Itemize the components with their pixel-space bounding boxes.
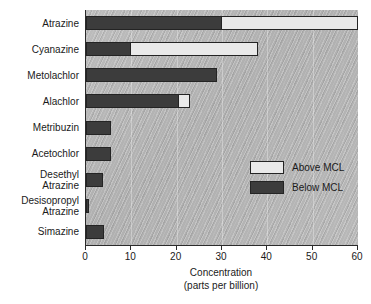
- legend-entry: Above MCL: [250, 158, 354, 178]
- gridline: [267, 10, 268, 245]
- bar-segment-below-mcl: [86, 16, 222, 30]
- bar-segment-below-mcl: [86, 68, 217, 82]
- plot-area: [85, 10, 358, 246]
- bar-segment-below-mcl: [86, 173, 103, 187]
- legend-entry: Below MCL: [250, 178, 354, 198]
- legend: Above MCLBelow MCL: [250, 158, 354, 198]
- category-label: Desisopropyl Atrazine: [0, 195, 79, 217]
- bar-segment-below-mcl: [86, 94, 179, 108]
- category-label: Cyanazine: [0, 44, 79, 55]
- x-axis-tick: [85, 245, 86, 250]
- category-label: Atrazine: [0, 18, 79, 29]
- legend-swatch-above-mcl: [250, 161, 284, 174]
- bar-segment-below-mcl: [86, 121, 111, 135]
- x-axis-tick-label: 0: [70, 251, 100, 262]
- x-axis-tick-label: 40: [251, 251, 281, 262]
- category-label: Alachlor: [0, 96, 79, 107]
- legend-label: Below MCL: [292, 181, 343, 194]
- gridline: [313, 10, 314, 245]
- x-axis-tick-label: 60: [342, 251, 371, 262]
- x-axis-tick: [130, 245, 131, 250]
- bar-chart: AtrazineCyanazineMetolachlorAlachlorMetr…: [0, 0, 371, 304]
- bar-segment-below-mcl: [86, 225, 104, 239]
- x-axis-title-main: Concentration: [85, 266, 357, 279]
- x-axis-tick: [357, 245, 358, 250]
- bar-segment-above-mcl: [130, 42, 258, 56]
- bar-segment-above-mcl: [178, 94, 190, 108]
- category-label: Acetochlor: [0, 148, 79, 159]
- x-axis-title: Concentration (parts per billion): [85, 266, 357, 292]
- category-label: Metolachlor: [0, 70, 79, 81]
- bar-segment-below-mcl: [86, 42, 131, 56]
- x-axis-tick: [266, 245, 267, 250]
- legend-swatch-below-mcl: [250, 181, 284, 194]
- x-axis-tick-label: 30: [206, 251, 236, 262]
- category-label: Metribuzin: [0, 122, 79, 133]
- x-axis-tick-label: 50: [297, 251, 327, 262]
- gridline: [358, 10, 359, 245]
- bar-segment-below-mcl: [86, 199, 89, 213]
- bar-segment-below-mcl: [86, 147, 111, 161]
- x-axis-tick: [176, 245, 177, 250]
- category-label: Desethyl Atrazine: [0, 169, 79, 191]
- legend-label: Above MCL: [292, 161, 344, 174]
- x-axis-tick-label: 20: [161, 251, 191, 262]
- x-axis-tick: [312, 245, 313, 250]
- bar-segment-above-mcl: [221, 16, 358, 30]
- category-label: Simazine: [0, 226, 79, 237]
- x-axis-tick-label: 10: [115, 251, 145, 262]
- x-axis-tick: [221, 245, 222, 250]
- x-axis-title-units: (parts per billion): [85, 279, 357, 292]
